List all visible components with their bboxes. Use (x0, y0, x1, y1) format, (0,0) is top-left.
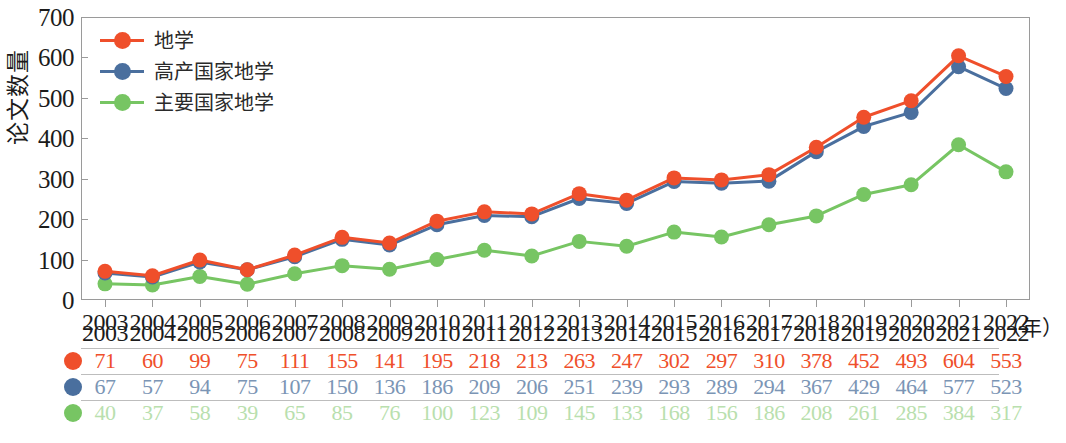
x-axis-tick-mark (1006, 300, 1007, 307)
legend-marker-icon (100, 60, 144, 82)
data-point[interactable] (667, 225, 682, 240)
x-axis-tick-mark (152, 300, 153, 307)
y-axis-tick-label: 200 (10, 207, 74, 232)
data-point[interactable] (761, 217, 776, 232)
table-header-row: 2003200420052006200720082009201020112012… (81, 320, 1030, 348)
y-axis-tick-label: 300 (10, 166, 74, 191)
x-axis-tick-mark (390, 300, 391, 307)
y-axis-tick-label: 500 (10, 85, 74, 110)
table-row: 7160997511115514119521821326324730229731… (81, 348, 1030, 374)
data-point[interactable] (714, 172, 729, 187)
data-point[interactable] (382, 262, 397, 277)
series-line-2 (105, 145, 1006, 285)
data-point[interactable] (809, 208, 824, 223)
data-point[interactable] (477, 243, 492, 258)
table-cell: 553 (978, 348, 1034, 374)
data-point[interactable] (429, 252, 444, 267)
y-axis-tick-mark (81, 219, 88, 220)
data-table: 2003200420052006200720082009201020112012… (0, 320, 1066, 443)
y-axis-tick-label: 600 (10, 45, 74, 70)
y-axis-tick-mark (81, 138, 88, 139)
legend-label: 地学 (154, 25, 194, 54)
legend-item[interactable]: 地学 (100, 24, 360, 55)
table-row: 4037583965857610012310914513316815618620… (81, 400, 1030, 426)
x-axis-tick-mark (721, 300, 722, 307)
chart-legend: 地学高产国家地学主要国家地学 (100, 24, 360, 117)
data-point[interactable] (951, 48, 966, 63)
x-axis-tick-mark (627, 300, 628, 307)
data-point[interactable] (572, 234, 587, 249)
y-axis-tick-label: 700 (10, 5, 74, 30)
x-axis-tick-mark (247, 300, 248, 307)
data-point[interactable] (999, 69, 1014, 84)
legend-marker-icon (100, 29, 144, 51)
y-axis: 论文数量 7006005004003002001000 (0, 0, 74, 320)
x-axis-tick-mark (579, 300, 580, 307)
data-point[interactable] (98, 264, 113, 279)
data-point[interactable] (856, 110, 871, 125)
chart-figure: 论文数量 7006005004003002001000 地学高产国家地学主要国家… (0, 0, 1066, 443)
x-axis-tick-mark (200, 300, 201, 307)
data-point[interactable] (619, 239, 634, 254)
data-point[interactable] (335, 230, 350, 245)
data-point[interactable] (429, 214, 444, 229)
x-axis-tick-mark (911, 300, 912, 307)
table-cell: 523 (978, 374, 1034, 400)
data-point[interactable] (240, 262, 255, 277)
legend-item[interactable]: 主要国家地学 (100, 86, 360, 117)
data-point[interactable] (904, 93, 919, 108)
data-point[interactable] (524, 206, 539, 221)
legend-marker-icon (100, 91, 144, 113)
x-axis-tick-mark (532, 300, 533, 307)
data-point[interactable] (287, 248, 302, 263)
x-axis-tick-mark (342, 300, 343, 307)
x-axis-tick-mark (769, 300, 770, 307)
data-point[interactable] (619, 193, 634, 208)
table-header-cell: 2022 (978, 320, 1034, 346)
data-point[interactable] (240, 277, 255, 292)
data-point[interactable] (951, 137, 966, 152)
x-axis-tick-mark (864, 300, 865, 307)
legend-label: 主要国家地学 (154, 87, 274, 116)
data-point[interactable] (192, 252, 207, 267)
data-point[interactable] (145, 268, 160, 283)
x-axis-tick-mark (959, 300, 960, 307)
x-axis-tick-mark (816, 300, 817, 307)
x-axis-tick-mark (105, 300, 106, 307)
legend-dot (114, 63, 131, 80)
data-point[interactable] (761, 167, 776, 182)
data-point[interactable] (192, 269, 207, 284)
y-axis-tick-mark (81, 98, 88, 99)
y-axis-tick-label: 400 (10, 126, 74, 151)
line-chart: 论文数量 7006005004003002001000 地学高产国家地学主要国家… (0, 0, 1066, 320)
data-point[interactable] (714, 229, 729, 244)
data-point[interactable] (904, 177, 919, 192)
y-axis-tick-label: 0 (10, 288, 74, 313)
y-axis-tick-mark (81, 179, 88, 180)
y-axis-tick-mark (81, 57, 88, 58)
data-point[interactable] (856, 187, 871, 202)
data-point[interactable] (335, 258, 350, 273)
table-row: 6757947510715013618620920625123929328929… (81, 374, 1030, 400)
legend-dot (114, 94, 131, 111)
y-axis-tick-mark (81, 260, 88, 261)
data-point[interactable] (477, 204, 492, 219)
data-point[interactable] (667, 170, 682, 185)
data-point[interactable] (572, 186, 587, 201)
x-axis-tick-mark (295, 300, 296, 307)
table-cell: 317 (978, 400, 1034, 426)
x-axis-tick-mark (437, 300, 438, 307)
data-point[interactable] (382, 235, 397, 250)
x-axis-tick-mark (484, 300, 485, 307)
legend-dot (114, 32, 131, 49)
legend-label: 高产国家地学 (154, 56, 274, 85)
data-point[interactable] (524, 248, 539, 263)
table-body: 7160997511115514119521821326324730229731… (81, 348, 1030, 426)
y-axis-tick-label: 100 (10, 247, 74, 272)
data-point[interactable] (287, 266, 302, 281)
data-point[interactable] (809, 140, 824, 155)
x-axis-tick-mark (674, 300, 675, 307)
legend-item[interactable]: 高产国家地学 (100, 55, 360, 86)
data-point[interactable] (999, 164, 1014, 179)
